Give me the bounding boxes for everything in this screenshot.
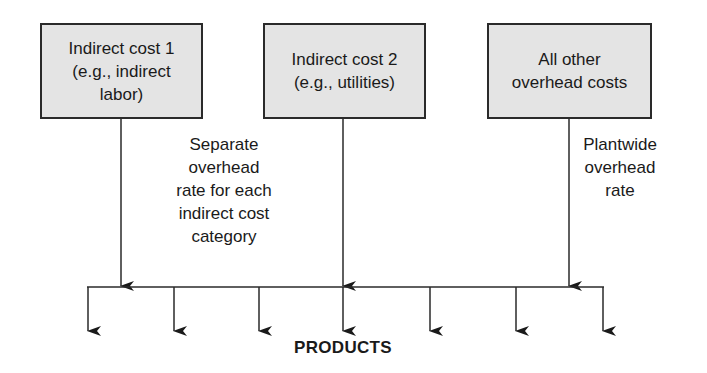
connector-lines <box>0 0 707 373</box>
product-arrows <box>88 287 603 331</box>
box-to-bar-arrows <box>121 119 569 286</box>
products-label: PRODUCTS <box>283 338 403 358</box>
